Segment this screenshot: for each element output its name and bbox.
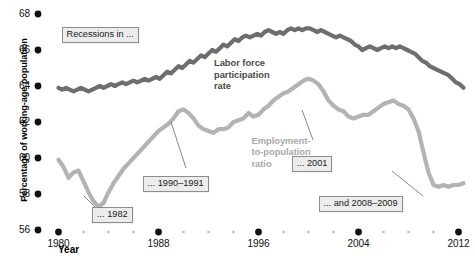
x-axis-minor-tick — [432, 231, 435, 234]
x-axis-minor-tick — [382, 231, 385, 234]
x-tick-label: 2012 — [439, 238, 475, 249]
y-axis-major-tick — [35, 227, 42, 234]
y-axis-major-tick — [35, 155, 42, 162]
x-axis-minor-tick — [232, 231, 235, 234]
x-axis-minor-tick — [182, 231, 185, 234]
callout-r-1990-1991: ... 1990–1991 — [143, 176, 209, 192]
x-axis-minor-tick — [407, 231, 410, 234]
y-tick-label: 60 — [4, 152, 30, 163]
y-axis-major-tick — [35, 83, 42, 90]
series-label-line: Employment- — [252, 135, 311, 146]
y-tick-label: 64 — [4, 80, 30, 91]
chart-container: Percentage of working-age population Yea… — [0, 0, 475, 259]
callout-r-2001: ... 2001 — [292, 156, 333, 172]
y-tick-label: 56 — [4, 224, 30, 235]
x-axis-major-tick — [255, 229, 262, 236]
x-axis-minor-tick — [107, 231, 110, 234]
callout-recessions-in: Recessions in ... — [62, 27, 139, 43]
x-tick-label: 1980 — [39, 238, 79, 249]
x-axis-minor-tick — [132, 231, 135, 234]
x-axis-minor-tick — [207, 231, 210, 234]
x-tick-label: 2004 — [339, 238, 379, 249]
y-axis-major-tick — [35, 191, 42, 198]
x-axis-major-tick — [355, 229, 362, 236]
x-axis-minor-tick — [307, 231, 310, 234]
x-axis-major-tick — [55, 229, 62, 236]
y-axis-major-tick — [35, 47, 42, 54]
x-axis-minor-tick — [282, 231, 285, 234]
x-axis-minor-tick — [332, 231, 335, 234]
leader-2008-2009 — [392, 171, 423, 196]
y-tick-label: 66 — [4, 44, 30, 55]
x-axis-major-tick — [155, 229, 162, 236]
y-axis-major-tick — [35, 11, 42, 18]
series-label-labor-force-participation-rate: Labor forceparticipationrate — [214, 57, 270, 91]
y-tick-label: 62 — [4, 116, 30, 127]
callout-r-2008-2009: ... and 2008–2009 — [319, 196, 403, 212]
y-tick-label: 68 — [4, 8, 30, 19]
x-tick-label: 1996 — [239, 238, 279, 249]
series-label-line: Labor force — [214, 57, 270, 68]
callout-r-1982: ... 1982 — [92, 207, 133, 223]
leader-1990-1991 — [171, 122, 186, 168]
series-label-line: participation — [214, 69, 270, 80]
x-axis-minor-tick — [82, 231, 85, 234]
x-tick-label: 1988 — [139, 238, 179, 249]
x-axis-major-tick — [455, 229, 462, 236]
y-axis-major-tick — [35, 119, 42, 126]
y-tick-label: 58 — [4, 188, 30, 199]
series-label-line: rate — [214, 80, 270, 91]
